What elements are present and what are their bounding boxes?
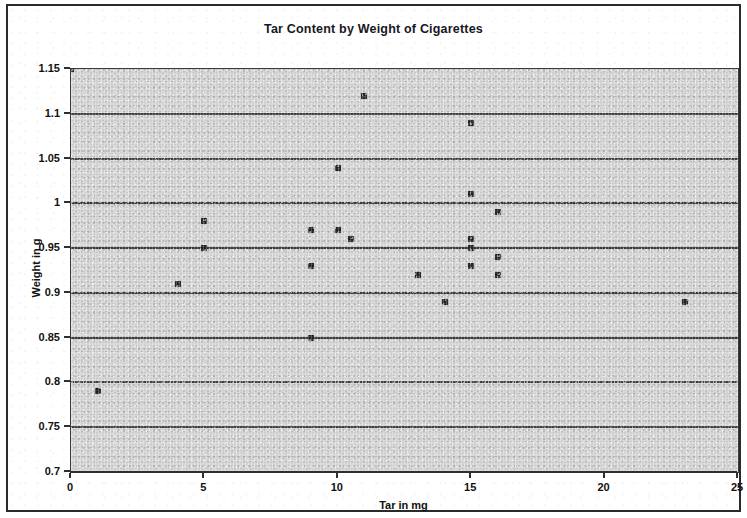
gridline: [71, 247, 738, 249]
data-point: [70, 68, 74, 72]
data-point: [201, 245, 207, 251]
gridline: [71, 381, 738, 383]
data-point: [308, 227, 314, 233]
gridline: [71, 426, 738, 428]
gridline: [71, 202, 738, 204]
y-axis-tick-label: 0.8: [45, 375, 60, 387]
y-axis-tick-label: 0.85: [39, 331, 60, 343]
chart-title: Tar Content by Weight of Cigarettes: [8, 22, 739, 36]
x-axis-title: Tar in mg: [70, 499, 737, 511]
y-axis-tick-label: 0.7: [45, 465, 60, 477]
data-point: [308, 263, 314, 269]
data-point: [495, 254, 501, 260]
x-axis-tick-mark: [736, 473, 738, 478]
x-axis-tick-label: 25: [731, 481, 743, 493]
data-point: [495, 209, 501, 215]
x-axis-tick-labels: 0510152025: [70, 473, 737, 497]
x-axis-tick-label: 5: [200, 481, 206, 493]
data-point: [335, 165, 341, 171]
x-axis-tick-mark: [69, 473, 71, 478]
gridline: [71, 337, 738, 339]
data-point: [415, 272, 421, 278]
plot-texture-overlay: [71, 69, 738, 472]
gridline: [71, 113, 738, 115]
data-point: [175, 281, 181, 287]
x-axis-tick-label: 15: [464, 481, 476, 493]
y-axis-tick-label: 1.05: [39, 152, 60, 164]
gridline: [71, 158, 738, 160]
x-axis-tick-label: 0: [67, 481, 73, 493]
data-point: [468, 263, 474, 269]
data-point: [348, 236, 354, 242]
plot-texture-overlay-secondary: [71, 69, 738, 472]
x-axis-tick-label: 20: [597, 481, 609, 493]
y-axis-tick-label: 1.1: [45, 107, 60, 119]
x-axis-tick-label: 10: [331, 481, 343, 493]
y-axis-tick-label: 0.9: [45, 286, 60, 298]
gridline: [71, 292, 738, 294]
data-point: [495, 272, 501, 278]
data-point: [468, 120, 474, 126]
data-point: [335, 227, 341, 233]
data-point: [201, 218, 207, 224]
plot-area: [70, 68, 739, 473]
data-point: [95, 388, 101, 394]
x-axis-tick-mark: [603, 473, 605, 478]
y-axis-tick-label: 1.15: [39, 62, 60, 74]
chart-frame: Tar Content by Weight of Cigarettes 0.70…: [6, 4, 741, 512]
data-point: [468, 191, 474, 197]
x-axis-tick-mark: [469, 473, 471, 478]
data-point: [468, 245, 474, 251]
x-axis-tick-mark: [202, 473, 204, 478]
data-point: [442, 299, 448, 305]
data-point: [308, 335, 314, 341]
data-point: [682, 299, 688, 305]
y-axis-title: Weight in g: [30, 218, 42, 318]
x-axis-tick-mark: [336, 473, 338, 478]
data-point: [361, 93, 367, 99]
data-point: [468, 236, 474, 242]
y-axis-tick-label: 1: [54, 196, 60, 208]
y-axis-tick-label: 0.75: [39, 420, 60, 432]
